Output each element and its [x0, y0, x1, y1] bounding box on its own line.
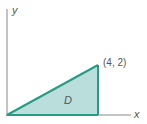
x-axis-label: x — [134, 109, 140, 120]
y-axis-label: y — [12, 5, 18, 16]
vertex-label: (4, 2) — [103, 58, 126, 68]
region-label: D — [64, 95, 72, 106]
